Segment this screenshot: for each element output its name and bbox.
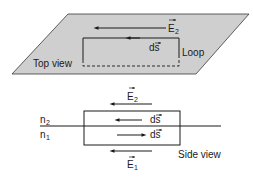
svg-text:ds: ds [149,42,160,53]
loop-label: Loop [182,47,205,58]
top-view-group: E 2 ds Loop Top view [12,14,249,74]
top-view-label: Top view [33,58,73,69]
loop-side-rect [84,111,180,145]
svg-text:2: 2 [175,28,179,35]
svg-text:ds: ds [150,114,161,125]
svg-text:E: E [168,23,175,34]
svg-text:E: E [127,159,134,170]
svg-text:2: 2 [134,96,138,103]
e1-label-side: E 1 [127,157,138,171]
n2-label: n 2 [40,114,50,126]
tangential-e-field-boundary-diagram: E 2 ds Loop Top view E 2 n 2 [0,0,253,178]
svg-text:2: 2 [46,119,50,126]
svg-text:1: 1 [134,164,138,171]
n1-label: n 1 [40,129,50,141]
svg-text:E: E [127,91,134,102]
svg-text:n: n [40,129,46,140]
svg-text:n: n [40,114,46,125]
ds-label-top: ds [149,42,161,53]
side-view-label: Side view [178,149,222,160]
side-view-group: E 2 n 2 n 1 ds ds [40,88,222,171]
svg-text:1: 1 [46,134,50,141]
svg-text:ds: ds [150,129,161,140]
ds-upper-label: ds [150,114,162,125]
ds-lower-label: ds [150,129,162,140]
e2-label-side: E 2 [127,88,138,103]
